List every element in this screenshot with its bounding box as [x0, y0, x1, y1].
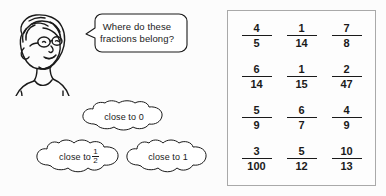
cloud-close-to-1[interactable]: close to 1 — [122, 139, 214, 175]
cloud-half-denominator: 2 — [92, 157, 99, 166]
cloud-close-to-1-text: close to 1 — [148, 152, 188, 162]
fraction-denominator: 9 — [253, 118, 259, 131]
fraction-cell[interactable]: 6 7 — [287, 104, 317, 130]
fraction-numerator: 7 — [343, 22, 349, 35]
cloud-half-fraction: 1 2 — [92, 148, 99, 166]
fraction-numerator: 10 — [340, 145, 352, 158]
fraction-numerator: 5 — [298, 145, 304, 158]
speech-bubble-text: Where do these fractions belong? — [84, 8, 190, 58]
fraction-denominator: 8 — [343, 36, 349, 49]
speech-bubble-line-1: Where do these — [103, 21, 171, 34]
fraction-cell[interactable]: 4 9 — [332, 104, 362, 130]
fraction-denominator: 5 — [253, 36, 259, 49]
fraction-denominator: 9 — [343, 118, 349, 131]
fraction-numerator: 4 — [253, 22, 259, 35]
fraction-numerator: 2 — [343, 63, 349, 76]
cloud-half-numerator: 1 — [92, 148, 99, 157]
fraction-numerator: 1 — [298, 22, 304, 35]
fraction-denominator: 7 — [298, 118, 304, 131]
fraction-cell[interactable]: 1 15 — [287, 63, 317, 89]
fraction-denominator: 100 — [247, 159, 265, 172]
fraction-denominator: 47 — [340, 77, 352, 90]
fraction-numerator: 5 — [253, 104, 259, 117]
cloud-close-to-1-label: close to 1 — [122, 139, 214, 175]
fraction-row: 6 14 1 15 2 47 — [234, 56, 369, 97]
cloud-close-to-half-label: close to 1 2 — [32, 139, 126, 175]
cloud-close-to-half-text: close to — [59, 152, 91, 162]
fraction-numerator: 4 — [343, 104, 349, 117]
fraction-cell[interactable]: 10 13 — [332, 145, 362, 171]
fraction-denominator: 12 — [295, 159, 307, 172]
cloud-close-to-0-text: close to 0 — [104, 112, 144, 122]
fraction-numerator: 1 — [298, 63, 304, 76]
fraction-denominator: 13 — [340, 159, 352, 172]
fraction-cell[interactable]: 2 47 — [332, 63, 362, 89]
worksheet-page: Where do these fractions belong? close t… — [0, 0, 386, 196]
fraction-cell[interactable]: 3 100 — [242, 145, 272, 171]
fraction-cell[interactable]: 7 8 — [332, 22, 362, 48]
fraction-grid-box: 4 5 1 14 7 8 6 14 1 — [227, 10, 376, 186]
fraction-cell[interactable]: 6 14 — [242, 63, 272, 89]
fraction-denominator: 15 — [295, 77, 307, 90]
fraction-row: 5 9 6 7 4 9 — [234, 97, 369, 138]
fraction-numerator: 6 — [253, 63, 259, 76]
speech-bubble: Where do these fractions belong? — [84, 8, 190, 58]
fraction-row: 3 100 5 12 10 13 — [234, 138, 369, 179]
child-head-with-glasses-icon — [2, 8, 78, 96]
fraction-cell[interactable]: 5 9 — [242, 104, 272, 130]
fraction-numerator: 6 — [298, 104, 304, 117]
fraction-cell[interactable]: 1 14 — [287, 22, 317, 48]
cloud-close-to-0-label: close to 0 — [78, 100, 170, 133]
fraction-cell[interactable]: 4 5 — [242, 22, 272, 48]
speech-bubble-line-2: fractions belong? — [100, 33, 174, 46]
fraction-cell[interactable]: 5 12 — [287, 145, 317, 171]
cloud-close-to-0[interactable]: close to 0 — [78, 100, 170, 133]
fraction-denominator: 14 — [295, 36, 307, 49]
fraction-denominator: 14 — [250, 77, 262, 90]
child-illustration — [2, 8, 78, 96]
fraction-numerator: 3 — [253, 145, 259, 158]
fraction-row: 4 5 1 14 7 8 — [234, 15, 369, 56]
cloud-close-to-half[interactable]: close to 1 2 — [32, 139, 126, 175]
